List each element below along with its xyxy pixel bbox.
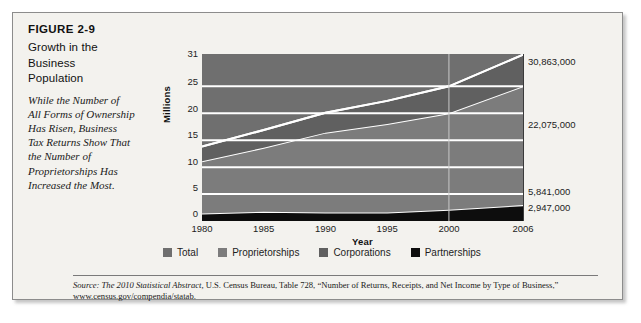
caption-line: Proprietorships Has (28, 164, 154, 178)
figure-panel: FIGURE 2-9 Growth in the Business Popula… (12, 12, 623, 300)
y-tick: 5 (172, 182, 198, 193)
x-tick: 1980 (191, 223, 212, 234)
legend-label: Total (177, 247, 198, 258)
legend-item-proprietorships: Proprietorships (218, 247, 299, 258)
figure-title-line-3: Population (28, 71, 154, 87)
source-prefix: Source: (73, 280, 99, 290)
legend-item-partnerships: Partnerships (411, 247, 481, 258)
figure-caption-column: FIGURE 2-9 Growth in the Business Popula… (28, 23, 154, 192)
legend-label: Proprietorships (232, 247, 299, 258)
legend-swatch-icon (163, 248, 172, 257)
x-tick: 1990 (315, 223, 336, 234)
x-tick: 1995 (377, 223, 398, 234)
y-tick: 20 (172, 103, 198, 114)
legend-item-corporations: Corporations (319, 247, 390, 258)
x-tick: 2000 (438, 223, 459, 234)
source-title: The 2010 Statistical Abstract, (102, 280, 204, 290)
y-axis-ticks: 31 25 20 15 10 5 0 (168, 27, 198, 227)
figure-description: While the Number of All Forms of Ownersh… (28, 93, 154, 192)
x-tick: 2006 (512, 223, 533, 234)
caption-line: the Number of (28, 149, 154, 163)
stacked-area-series (202, 54, 523, 221)
value-label-total: 30,863,000 (528, 56, 576, 67)
y-tick: 10 (172, 156, 198, 167)
caption-line: All Forms of Ownership (28, 107, 154, 121)
legend-label: Corporations (333, 247, 390, 258)
caption-line: Has Risen, Business (28, 121, 154, 135)
source-note: Source: The 2010 Statistical Abstract, U… (73, 280, 601, 303)
figure-title-line-1: Growth in the (28, 40, 154, 56)
plot-area (202, 54, 524, 221)
y-tick: 0 (172, 208, 198, 219)
x-axis-label: Year (202, 236, 523, 247)
legend-swatch-icon (411, 248, 420, 257)
legend-swatch-icon (319, 248, 328, 257)
figure-title-line-2: Business (28, 56, 154, 72)
value-label-partnerships: 2,947,000 (528, 202, 570, 213)
caption-line: Tax Returns Show That (28, 135, 154, 149)
source-divider (73, 275, 598, 276)
value-label-corporations: 5,841,000 (528, 186, 570, 197)
x-tick: 1985 (253, 223, 274, 234)
caption-line: Increased the Most. (28, 178, 154, 192)
value-label-proprietorships: 22,075,000 (528, 119, 576, 130)
caption-line: While the Number of (28, 93, 154, 107)
legend-item-total: Total (163, 247, 198, 258)
figure-number: FIGURE 2-9 (28, 23, 154, 35)
y-tick: 25 (172, 76, 198, 87)
y-tick: 31 (172, 48, 198, 59)
y-tick: 15 (172, 129, 198, 140)
area-chart: Millions 31 25 20 15 10 5 0 1980 1985 19… (154, 27, 614, 242)
legend-label: Partnerships (425, 247, 481, 258)
chart-legend: Total Proprietorships Corporations Partn… (163, 247, 481, 258)
legend-swatch-icon (218, 248, 227, 257)
